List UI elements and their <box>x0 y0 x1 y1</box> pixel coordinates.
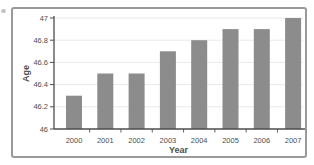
y-tick-label: 46.2 <box>33 102 48 111</box>
x-tick-label: 2007 <box>285 136 302 145</box>
bar-2000 <box>66 96 82 129</box>
x-tick-label: 2004 <box>191 136 208 145</box>
y-tick-label: 46.8 <box>33 36 48 45</box>
y-tick-label: 46 <box>40 125 48 134</box>
x-axis-title: Year <box>169 145 189 155</box>
chart-frame: 4646.246.446.646.84720002001200220032004… <box>11 7 307 158</box>
bar-2006 <box>254 29 270 129</box>
y-tick-label: 46.4 <box>33 80 48 89</box>
y-tick-label: 47 <box>40 14 48 23</box>
x-tick-label: 2003 <box>160 136 177 145</box>
stray-mark <box>1 9 6 13</box>
bar-2004 <box>191 40 207 129</box>
x-tick-label: 2002 <box>128 136 145 145</box>
x-tick-label: 2006 <box>253 136 270 145</box>
x-tick-label: 2001 <box>97 136 114 145</box>
age-by-year-bar-chart: 4646.246.446.646.84720002001200220032004… <box>13 9 305 156</box>
bar-2003 <box>160 51 176 129</box>
x-tick-label: 2005 <box>222 136 239 145</box>
y-tick-label: 46.6 <box>33 58 48 67</box>
bar-2001 <box>97 74 113 130</box>
page-background: 4646.246.446.646.84720002001200220032004… <box>0 0 314 165</box>
x-tick-label: 2000 <box>66 136 83 145</box>
bar-2007 <box>285 18 301 129</box>
bar-2002 <box>129 74 145 130</box>
bar-2005 <box>223 29 239 129</box>
y-axis-title: Age <box>21 65 31 82</box>
